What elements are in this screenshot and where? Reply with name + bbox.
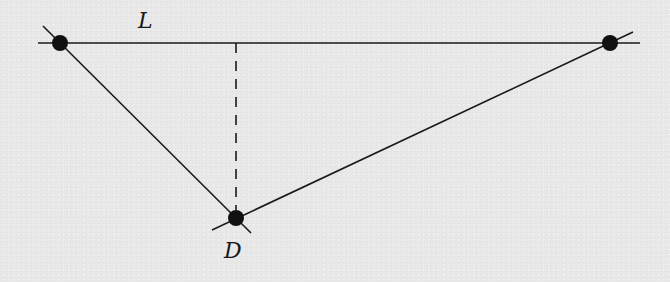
point-D-dot (228, 210, 244, 226)
segment-left-to-D (43, 26, 251, 233)
diagram-canvas: L D (0, 0, 670, 282)
left-point-dot (52, 35, 68, 51)
label-L: L (137, 8, 153, 33)
segment-right-to-D (212, 32, 633, 230)
right-point-dot (602, 35, 618, 51)
label-D: D (223, 238, 242, 263)
geometry-figure: L D (0, 0, 670, 282)
